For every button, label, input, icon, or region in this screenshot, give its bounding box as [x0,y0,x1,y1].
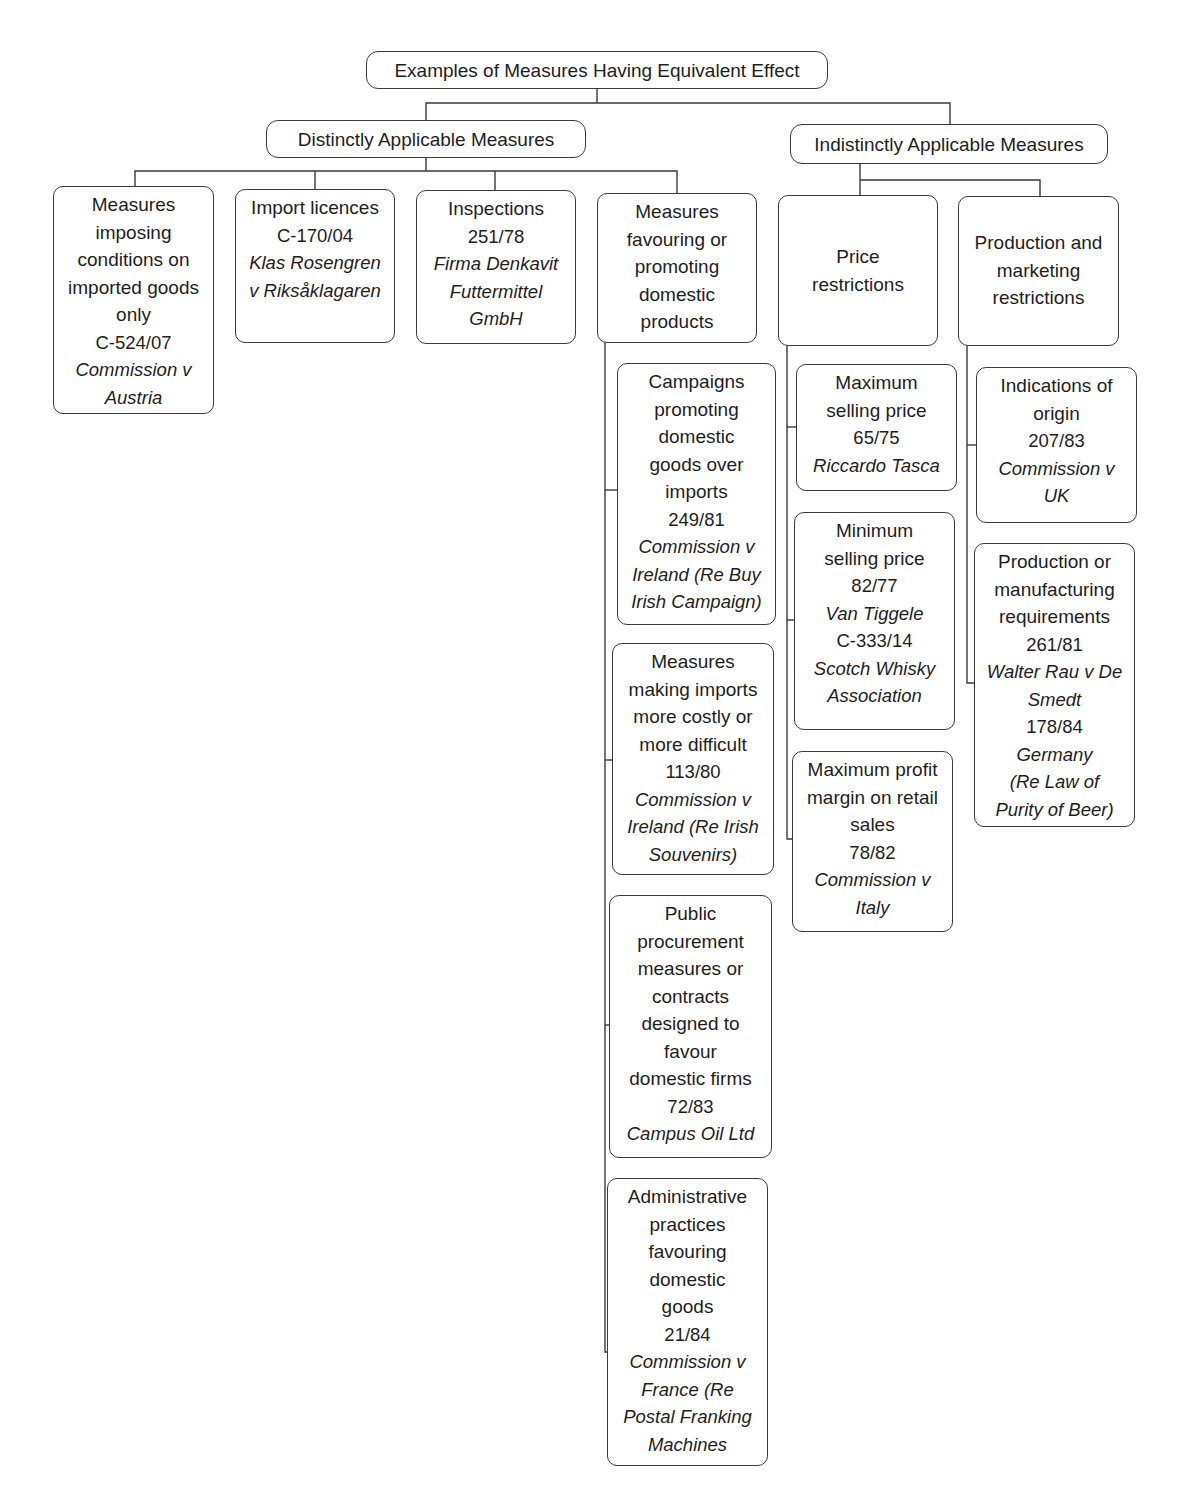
node-label: conditions on [78,246,190,274]
node-label: requirements [999,603,1110,631]
root-title: Examples of Measures Having Equivalent E… [394,57,799,84]
case-name: Scotch Whisky [814,655,935,683]
node-label: promoting [635,253,720,281]
case-number: 249/81 [668,506,725,534]
node-label: Indications of [1001,372,1113,400]
case-number: C-170/04 [277,222,353,250]
case-number: 72/83 [667,1093,713,1121]
case-number: 207/83 [1028,427,1085,455]
node-label: margin on retail [807,784,938,812]
case-name: France (Re [641,1376,734,1404]
case-name: Souvenirs) [649,841,737,869]
case-name: Klas Rosengren [249,249,381,277]
node-label: sales [850,811,894,839]
node-label: restrictions [812,271,904,299]
node-label: selling price [824,545,924,573]
branch-label: Distinctly Applicable Measures [298,126,555,153]
node-maximum-selling-price: Maximum selling price 65/75 Riccardo Tas… [796,364,957,491]
case-name: Commission v [814,866,930,894]
node-label: contracts [652,983,729,1011]
node-production-manufacturing-requirements: Production or manufacturing requirements… [974,543,1135,827]
case-number: 178/84 [1026,713,1083,741]
node-label: measures or [638,955,744,983]
case-name: Association [827,682,922,710]
node-favouring-domestic-products: Measures favouring or promoting domestic… [597,193,757,343]
node-minimum-selling-price: Minimum selling price 82/77 Van Tiggele … [794,512,955,730]
case-number: 78/82 [849,839,895,867]
node-label: Inspections [448,195,544,223]
node-label: imported goods [68,274,199,302]
node-indications-of-origin: Indications of origin 207/83 Commission … [976,367,1137,523]
node-label: only [116,301,151,329]
case-number: 82/77 [851,572,897,600]
branch-indistinctly-applicable: Indistinctly Applicable Measures [790,124,1108,164]
node-label: manufacturing [994,576,1114,604]
case-number: 251/78 [468,223,525,251]
node-label: Production or [998,548,1111,576]
case-name: Postal Franking [623,1403,752,1431]
node-label: marketing [997,257,1080,285]
case-name: Riccardo Tasca [813,452,940,480]
node-label: Measures [635,198,718,226]
node-label: Price [836,243,879,271]
case-number: 65/75 [853,424,899,452]
case-name: Machines [648,1431,727,1459]
case-name: Commission v [629,1348,745,1376]
branch-label: Indistinctly Applicable Measures [814,131,1083,158]
node-label: favouring [648,1238,726,1266]
node-label: practices [649,1211,725,1239]
case-name: UK [1044,482,1070,510]
branch-distinctly-applicable: Distinctly Applicable Measures [266,120,586,158]
node-inspections: Inspections 251/78 Firma Denkavit Futter… [416,190,576,344]
case-name: Commission v [635,786,751,814]
node-label: Maximum profit [808,756,938,784]
node-import-licences: Import licences C-170/04 Klas Rosengren … [235,189,395,343]
case-name: Austria [105,384,163,412]
case-name: Futtermittel [450,278,543,306]
case-name: Commission v [75,356,191,384]
case-name: Italy [856,894,890,922]
case-name: Purity of Beer) [995,796,1113,824]
node-label: restrictions [993,284,1085,312]
node-label: promoting [654,396,739,424]
node-label: imports [665,478,727,506]
case-name: Commission v [998,455,1114,483]
node-label: goods [662,1293,714,1321]
node-label: designed to [641,1010,739,1038]
case-name: Firma Denkavit [434,250,558,278]
case-name: Irish Campaign) [631,588,762,616]
node-label: more costly or [633,703,752,731]
node-label: Production and [975,229,1103,257]
node-label: Measures [651,648,734,676]
case-name: GmbH [469,305,522,333]
node-label: domestic [639,281,715,309]
node-label: imposing [95,219,171,247]
node-label: selling price [826,397,926,425]
node-label: Import licences [251,194,379,222]
case-name: Commission v [638,533,754,561]
node-label: domestic [649,1266,725,1294]
node-label: domestic [658,423,734,451]
case-number: 21/84 [664,1321,710,1349]
node-campaigns-promoting-domestic-goods: Campaigns promoting domestic goods over … [617,363,776,625]
node-label: Administrative [628,1183,747,1211]
case-name: Van Tiggele [826,600,924,628]
case-name: Campus Oil Ltd [627,1120,755,1148]
node-label: more difficult [639,731,746,759]
node-maximum-profit-margin: Maximum profit margin on retail sales 78… [792,751,953,932]
case-number: 113/80 [665,758,720,786]
case-name: (Re Law of [1010,768,1099,796]
node-label: domestic firms [629,1065,751,1093]
case-name: Ireland (Re Irish [627,813,759,841]
node-label: goods over [649,451,743,479]
node-label: Public [665,900,717,928]
node-label: products [641,308,714,336]
node-label: Maximum [835,369,917,397]
node-label: Campaigns [648,368,744,396]
case-number: C-524/07 [95,329,171,357]
node-public-procurement: Public procurement measures or contracts… [609,895,772,1158]
case-name: Germany [1016,741,1092,769]
node-label: Minimum [836,517,913,545]
case-name: Walter Rau v De [987,658,1122,686]
case-number: C-333/14 [836,627,912,655]
